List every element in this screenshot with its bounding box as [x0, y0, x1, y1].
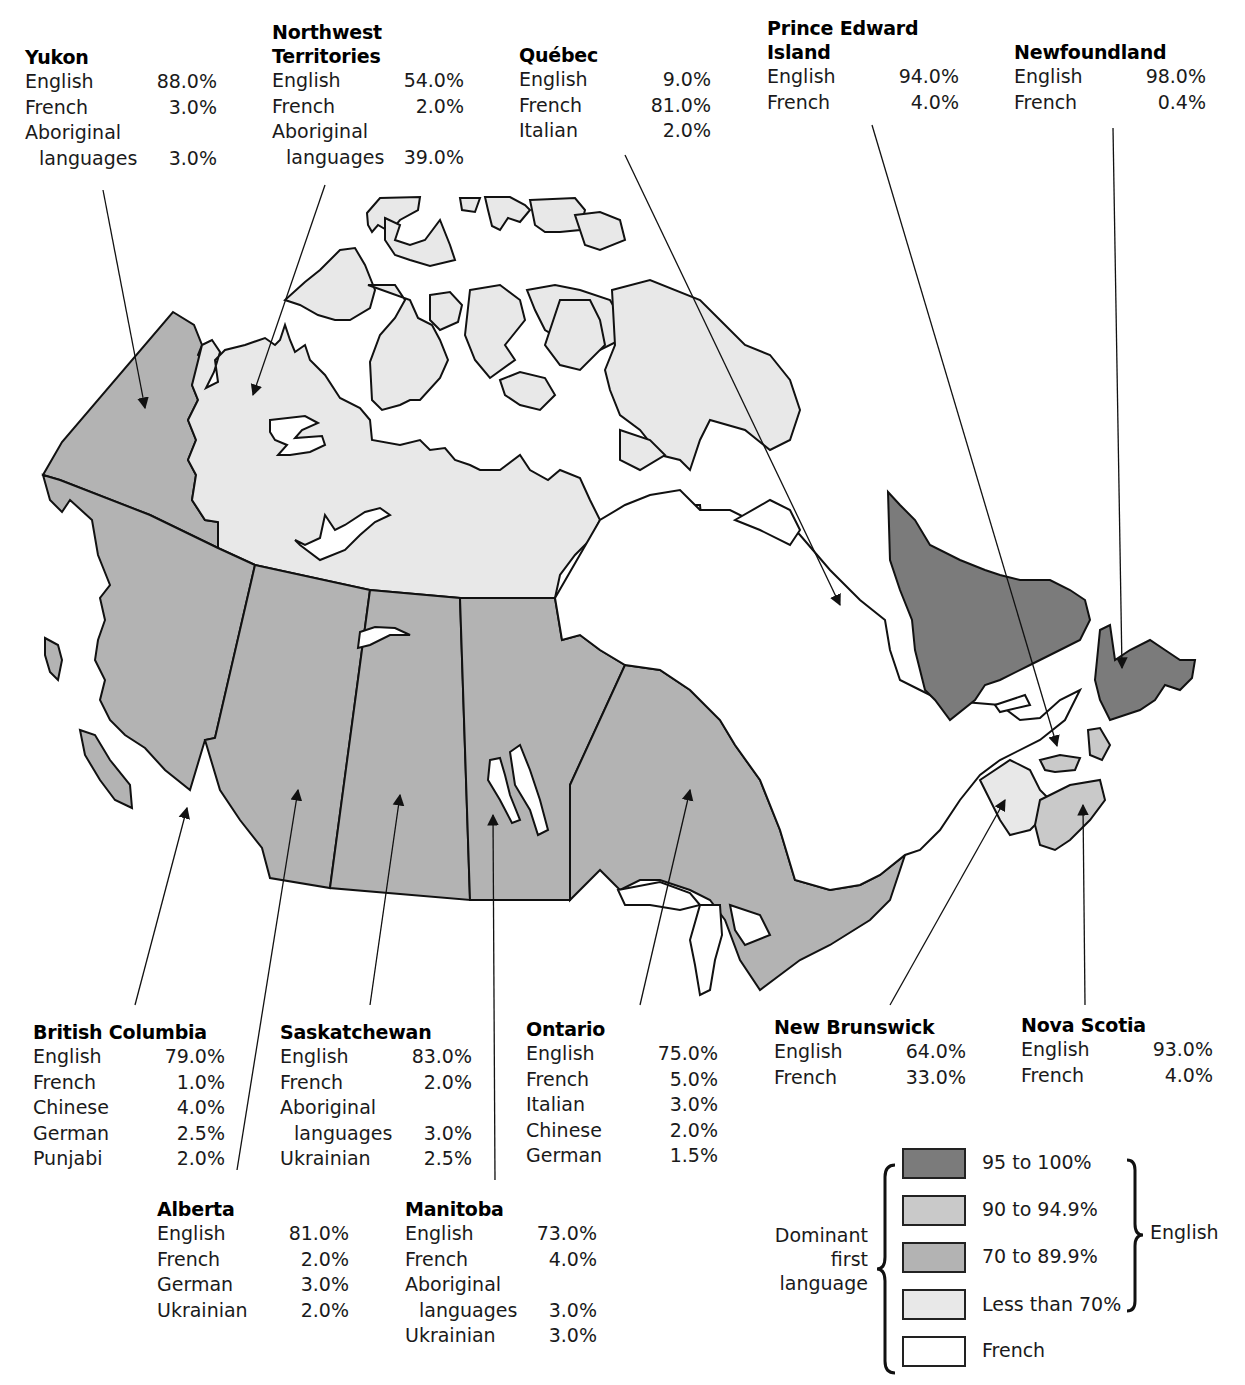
province-name: Nova Scotia	[1021, 1013, 1213, 1037]
province-name: Prince Edward	[767, 16, 959, 40]
province-box-new-brunswick: New Brunswick English64.0% French33.0%	[774, 1015, 966, 1090]
region-prince-edward-island	[1040, 755, 1080, 772]
province-name-2: Territories	[272, 44, 464, 68]
legend-label: 70 to 89.9%	[982, 1245, 1098, 1267]
region-labrador	[888, 492, 1090, 720]
legend-label: French	[982, 1339, 1045, 1361]
region-newfoundland	[1095, 625, 1195, 720]
province-name: Newfoundland	[1014, 40, 1206, 64]
legend-left-label: Dominant first language	[770, 1223, 868, 1295]
province-box-newfoundland: Newfoundland English98.0% French0.4%	[1014, 40, 1206, 115]
province-box-manitoba: Manitoba English73.0% French4.0% Aborigi…	[405, 1197, 597, 1349]
province-box-ontario: Ontario English75.0% French5.0% Italian3…	[526, 1017, 718, 1169]
legend-swatch-less-70	[902, 1289, 966, 1320]
province-name: Yukon	[25, 45, 217, 69]
legend-label: 95 to 100%	[982, 1151, 1092, 1173]
legend-swatch-french	[902, 1336, 966, 1367]
province-name: British Columbia	[33, 1020, 225, 1044]
province-name: Manitoba	[405, 1197, 597, 1221]
province-box-british-columbia: British Columbia English79.0% French1.0%…	[33, 1020, 225, 1172]
legend-right-brace-icon	[1125, 1158, 1145, 1313]
legend-right-label: English	[1150, 1221, 1219, 1243]
province-name: Saskatchewan	[280, 1020, 472, 1044]
province-box-nova-scotia: Nova Scotia English93.0% French4.0%	[1021, 1013, 1213, 1088]
province-name: New Brunswick	[774, 1015, 966, 1039]
province-box-alberta: Alberta English81.0% French2.0% German3.…	[157, 1197, 349, 1323]
province-box-prince-edward-island: Prince Edward Island English94.0% French…	[767, 16, 959, 115]
region-nova-scotia	[1035, 780, 1105, 850]
legend-label: Less than 70%	[982, 1293, 1121, 1315]
province-box-saskatchewan: Saskatchewan English83.0% French2.0% Abo…	[280, 1020, 472, 1172]
province-box-quebec: Québec English9.0% French81.0% Italian2.…	[519, 43, 711, 144]
legend: Dominant first language 95 to 100% 90 to…	[770, 1143, 1240, 1378]
province-name-2: Island	[767, 40, 959, 64]
legend-swatch-95-100	[902, 1148, 966, 1179]
province-name: Alberta	[157, 1197, 349, 1221]
legend-left-brace-icon	[875, 1163, 897, 1375]
legend-swatch-70-89-9	[902, 1242, 966, 1273]
province-name: Ontario	[526, 1017, 718, 1041]
province-box-yukon: Yukon English88.0% French3.0% Aboriginal…	[25, 45, 217, 171]
legend-swatch-90-94-9	[902, 1195, 966, 1226]
province-name: Québec	[519, 43, 711, 67]
legend-label: 90 to 94.9%	[982, 1198, 1098, 1220]
province-name: Northwest	[272, 20, 464, 44]
province-box-northwest-territories: Northwest Territories English54.0% Frenc…	[272, 20, 464, 170]
